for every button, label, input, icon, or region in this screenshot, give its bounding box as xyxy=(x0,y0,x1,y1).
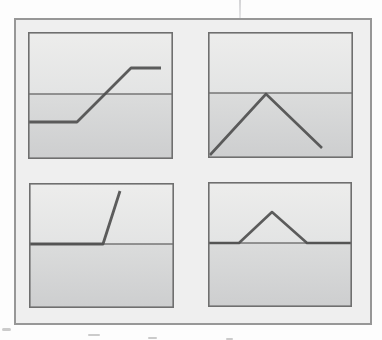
panel-triangle-pulse-plot xyxy=(208,182,352,307)
scan-speck xyxy=(148,337,157,339)
scan-speck xyxy=(88,334,100,336)
panel-saturating-ramp-plot xyxy=(28,32,173,159)
panel-flat-then-steep-rise-plot xyxy=(29,183,174,308)
panel-zero-crossing-triangle-plot xyxy=(208,32,353,158)
page-background xyxy=(0,0,382,340)
scan-speck xyxy=(2,328,11,331)
